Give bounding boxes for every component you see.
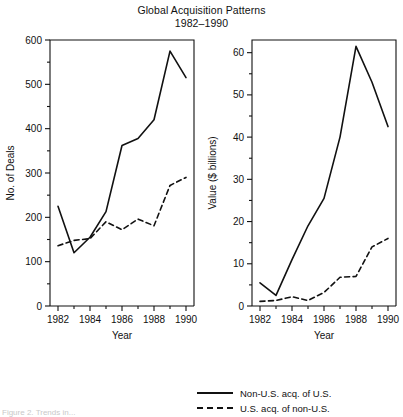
svg-text:Year: Year [112, 330, 133, 341]
solid-line-key [196, 388, 234, 398]
legend-item-dashed: U.S. acq. of non-U.S. [196, 401, 396, 415]
legend-label-dashed: U.S. acq. of non-U.S. [240, 403, 330, 414]
svg-text:1990: 1990 [377, 314, 400, 325]
svg-text:20: 20 [233, 216, 245, 227]
legend: Non-U.S. acq. of U.S. U.S. acq. of non-U… [196, 386, 396, 416]
value-plot: 010203040506019821984198619881990YearVal… [202, 34, 403, 364]
svg-text:0: 0 [36, 301, 42, 312]
title-line-2: 1982–1990 [0, 17, 403, 30]
svg-text:60: 60 [233, 47, 245, 58]
svg-text:Value ($ billions): Value ($ billions) [207, 136, 218, 209]
svg-text:10: 10 [233, 258, 245, 269]
legend-label-solid: Non-U.S. acq. of U.S. [240, 388, 331, 399]
svg-text:100: 100 [25, 256, 42, 267]
chart-panel-deals: 010020030040050060019821984198619881990Y… [0, 34, 201, 364]
svg-text:1990: 1990 [175, 314, 198, 325]
chart-panels: 010020030040050060019821984198619881990Y… [0, 34, 403, 364]
svg-text:No. of Deals: No. of Deals [5, 145, 16, 200]
svg-text:600: 600 [25, 35, 42, 46]
svg-text:400: 400 [25, 123, 42, 134]
svg-text:1988: 1988 [143, 314, 166, 325]
svg-text:1986: 1986 [313, 314, 336, 325]
svg-text:1982: 1982 [47, 314, 70, 325]
svg-text:200: 200 [25, 212, 42, 223]
svg-text:1986: 1986 [111, 314, 134, 325]
svg-text:Year: Year [314, 330, 335, 341]
svg-text:1982: 1982 [249, 314, 272, 325]
dashed-line-key [196, 403, 234, 413]
svg-text:40: 40 [233, 132, 245, 143]
deals-plot: 010020030040050060019821984198619881990Y… [0, 34, 201, 364]
svg-text:1984: 1984 [79, 314, 102, 325]
title-line-1: Global Acquisition Patterns [0, 4, 403, 17]
figure: Global Acquisition Patterns 1982–1990 01… [0, 0, 403, 417]
chart-panel-value: 010203040506019821984198619881990YearVal… [202, 34, 403, 364]
figure-title: Global Acquisition Patterns 1982–1990 [0, 4, 403, 30]
figure-caption: Figure 2. Trends in... [2, 408, 182, 417]
svg-text:1984: 1984 [281, 314, 304, 325]
svg-text:30: 30 [233, 174, 245, 185]
legend-item-solid: Non-U.S. acq. of U.S. [196, 386, 396, 400]
svg-text:500: 500 [25, 79, 42, 90]
svg-text:50: 50 [233, 89, 245, 100]
svg-text:0: 0 [238, 301, 244, 312]
svg-text:1988: 1988 [345, 314, 368, 325]
svg-text:300: 300 [25, 168, 42, 179]
